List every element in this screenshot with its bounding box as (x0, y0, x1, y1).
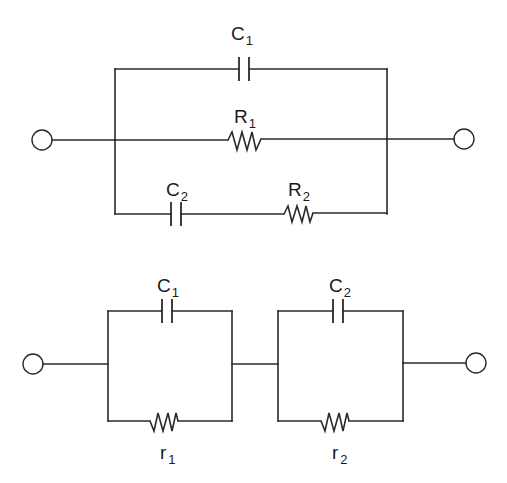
bottom-circuit: C1 r1 C2 r2 (23, 275, 486, 467)
label-c2: C2 (166, 179, 188, 204)
label-r2: R2 (288, 179, 310, 204)
rc-cell-2 (278, 299, 403, 431)
resistor-zigzag-icon (321, 413, 349, 431)
left-terminal-icon (23, 354, 43, 374)
left-terminal-icon (32, 130, 52, 150)
label-r1: R1 (234, 106, 256, 131)
label-r1-small: r1 (160, 442, 176, 467)
right-terminal-icon (466, 353, 486, 373)
resistor-zigzag-icon (284, 206, 313, 222)
capacitor-c1 (115, 57, 387, 81)
series-branch-c2-r2 (115, 202, 387, 226)
label-c2-bottom: C2 (329, 275, 351, 300)
rc-cell-1 (108, 299, 232, 431)
resistor-zigzag-icon (150, 413, 178, 431)
label-c1: C1 (231, 23, 253, 48)
label-r2-small: r2 (332, 442, 348, 467)
top-circuit: C1 R1 C2 R2 (32, 23, 474, 226)
circuit-diagram: C1 R1 C2 R2 (0, 0, 507, 483)
resistor-r1 (115, 132, 387, 150)
label-c1-bottom: C1 (157, 275, 179, 300)
right-terminal-icon (454, 129, 474, 149)
resistor-zigzag-icon (228, 132, 261, 150)
